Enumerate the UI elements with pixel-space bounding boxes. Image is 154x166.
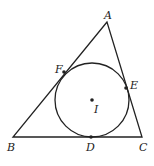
label-i: I	[93, 103, 99, 116]
label-e: E	[129, 79, 138, 92]
label-d: D	[85, 141, 95, 154]
label-c: C	[139, 141, 148, 154]
point-e	[124, 86, 128, 90]
point-d	[89, 135, 93, 139]
label-b: B	[6, 141, 15, 154]
diagram-canvas: A B C D E F I	[0, 0, 154, 166]
label-f: F	[54, 63, 63, 76]
point-i	[90, 98, 94, 102]
label-a: A	[103, 9, 112, 22]
point-f	[62, 70, 66, 74]
